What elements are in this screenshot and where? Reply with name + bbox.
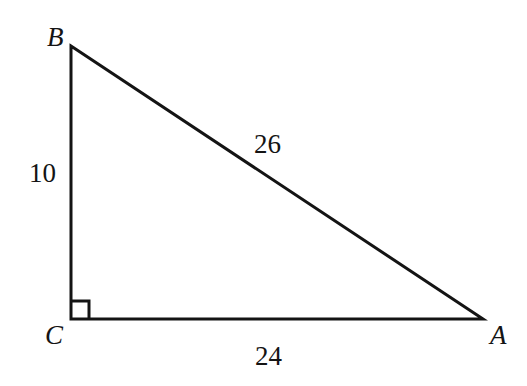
side-length-label-ca: 24	[255, 343, 282, 370]
side-length-label-ab: 26	[254, 131, 281, 158]
triangle-figure	[0, 0, 527, 386]
triangle-outline	[71, 46, 483, 319]
vertex-label-a: A	[490, 322, 507, 349]
side-length-label-bc: 10	[29, 160, 56, 187]
vertex-label-b: B	[47, 24, 64, 51]
vertex-label-c: C	[45, 322, 63, 349]
right-angle-square-icon	[71, 301, 89, 319]
triangle-diagram-canvas: B C A 10 24 26	[0, 0, 527, 386]
